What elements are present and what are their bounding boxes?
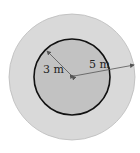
concentric-circles-diagram: 3 m 5 m [0, 0, 140, 153]
outer-radius-label: 5 m [89, 58, 110, 71]
inner-circle [34, 39, 110, 115]
inner-radius-label: 3 m [43, 63, 64, 76]
